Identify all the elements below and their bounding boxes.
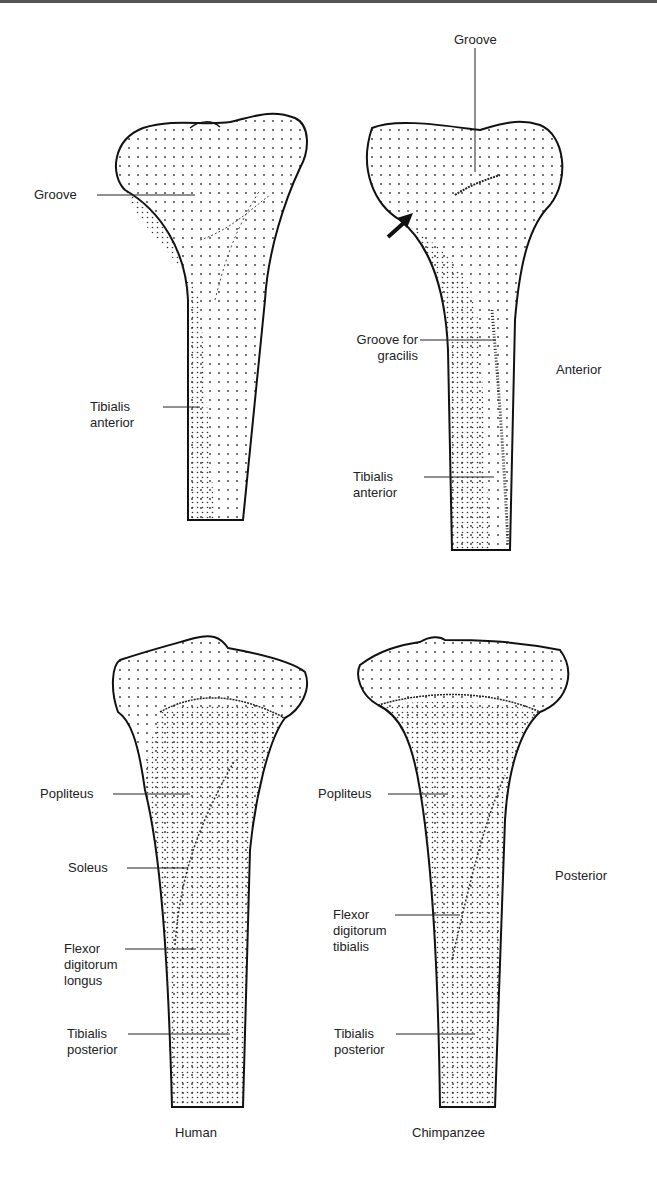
label-groove-chimp: Groove bbox=[454, 32, 497, 48]
label-popliteus-human: Popliteus bbox=[40, 786, 93, 802]
label-flexor-digitorum-longus: Flexor digitorum longus bbox=[64, 941, 117, 989]
label-tibialis-posterior-chimp: Tibialis posterior bbox=[334, 1026, 385, 1058]
label-tibialis-anterior-chimp: Tibialis anterior bbox=[353, 469, 397, 501]
label-tibialis-posterior-human: Tibialis posterior bbox=[67, 1026, 118, 1058]
label-flexor-digitorum-tibialis: Flexor digitorum tibialis bbox=[333, 907, 386, 955]
human-anterior-tibia bbox=[116, 114, 307, 520]
caption-human: Human bbox=[175, 1125, 217, 1140]
label-popliteus-chimp: Popliteus bbox=[318, 786, 371, 802]
label-tibialis-anterior-human: Tibialis anterior bbox=[90, 399, 134, 431]
view-label-anterior: Anterior bbox=[556, 362, 602, 378]
tibia-illustration bbox=[0, 0, 657, 1195]
caption-chimpanzee: Chimpanzee bbox=[412, 1125, 485, 1140]
human-posterior-tibia bbox=[113, 636, 307, 1107]
label-groove-human: Groove bbox=[34, 187, 77, 203]
label-groove-for-gracilis: Groove for gracilis bbox=[348, 332, 418, 364]
view-label-posterior: Posterior bbox=[555, 868, 607, 884]
chimp-posterior-tibia bbox=[358, 637, 568, 1107]
label-soleus: Soleus bbox=[68, 860, 108, 876]
